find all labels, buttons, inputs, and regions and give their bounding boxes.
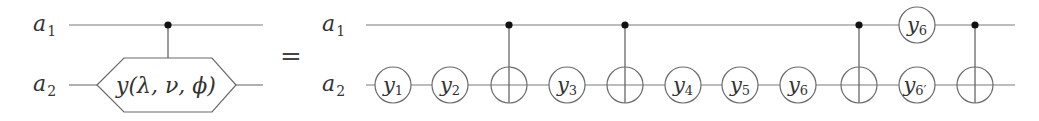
cnot-gate-1 — [491, 21, 527, 103]
right-circuit: a1 a2 y1 y2 y3 — [322, 7, 1015, 103]
cnot-gate-3 — [841, 21, 877, 103]
gate-y4: y4 — [665, 67, 701, 103]
circuit-diagram: a1 a2 y(λ, ν, ϕ) = a1 a2 y1 y2 — [0, 0, 1039, 121]
control-dot — [621, 21, 628, 28]
qubit-label-a1-left: a1 — [33, 11, 56, 39]
gate-y6-prime: y6′ — [899, 67, 935, 103]
cnot-gate-4 — [957, 21, 993, 103]
control-dot — [505, 21, 512, 28]
control-dot — [164, 21, 171, 28]
gate-y3: y3 — [549, 67, 585, 103]
control-dot — [855, 21, 862, 28]
gate-y2: y2 — [432, 67, 468, 103]
equals-sign: = — [280, 41, 302, 71]
gate-y6-top: y6 — [899, 7, 935, 43]
left-circuit: a1 a2 y(λ, ν, ϕ) — [33, 11, 263, 112]
hexagon-gate-label: y(λ, ν, ϕ) — [115, 73, 216, 98]
cnot-gate-2 — [607, 21, 643, 103]
qubit-label-a1-right: a1 — [322, 11, 345, 39]
gate-y5: y5 — [722, 67, 758, 103]
qubit-label-a2-left: a2 — [33, 71, 56, 99]
gate-y6: y6 — [780, 67, 816, 103]
gate-y1: y1 — [375, 67, 411, 103]
control-dot — [971, 21, 978, 28]
qubit-label-a2-right: a2 — [322, 71, 345, 99]
